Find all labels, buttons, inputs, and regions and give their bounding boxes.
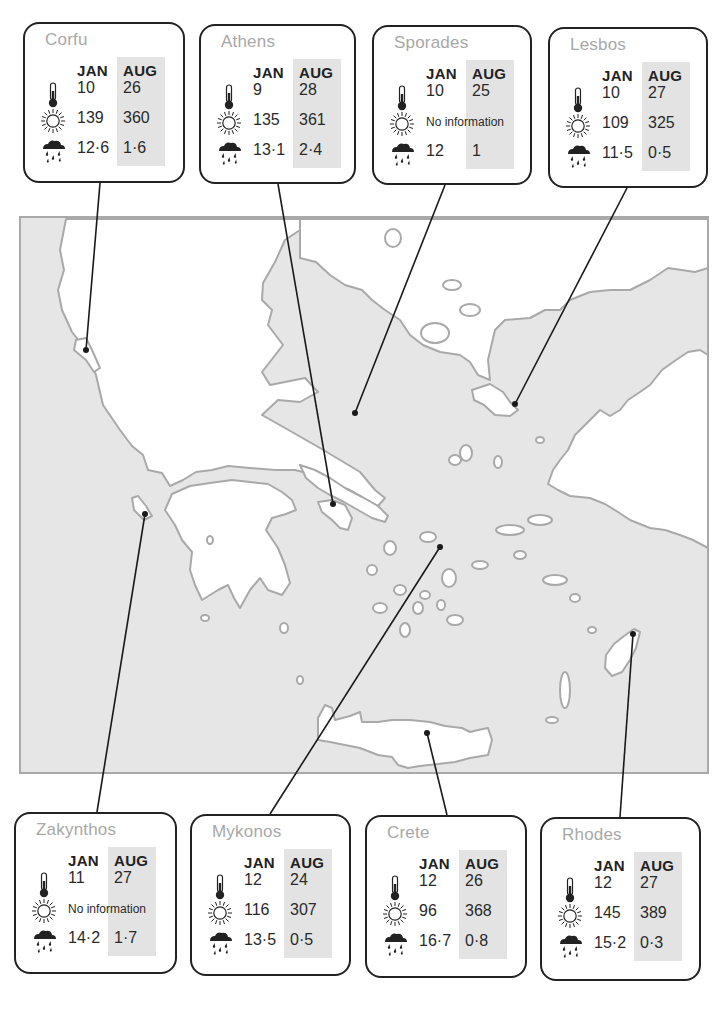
temp-jan: 11 <box>68 869 85 887</box>
sun-aug: 368 <box>465 902 492 920</box>
thermometer-icon <box>381 875 409 901</box>
jan-header: JAN <box>602 67 633 84</box>
sun-icon <box>556 903 584 929</box>
temp-aug: 26 <box>465 872 483 890</box>
location-name: Corfu <box>45 30 88 50</box>
jan-header: JAN <box>594 857 625 874</box>
location-name: Lesbos <box>570 35 626 55</box>
location-name: Rhodes <box>562 825 622 845</box>
sun-icon <box>39 108 67 134</box>
temp-jan: 12 <box>419 872 437 890</box>
thermometer-icon <box>39 82 67 108</box>
location-name: Athens <box>221 32 275 52</box>
dot-lesbos <box>512 401 518 407</box>
location-name: Mykonos <box>212 822 281 842</box>
card-rhodes: Rhodes JAN AUG 12 27 145 389 15·2 0·3 <box>540 817 701 981</box>
sun-icon <box>388 111 416 137</box>
location-name: Zakynthos <box>36 820 116 840</box>
sun-aug: 389 <box>640 904 667 922</box>
card-crete: Crete JAN AUG 12 26 96 368 16·7 0·8 <box>365 815 527 978</box>
dot-sporades <box>352 410 358 416</box>
jan-header: JAN <box>426 65 457 82</box>
temp-aug: 27 <box>640 874 658 892</box>
card-corfu: Corfu JAN AUG 10 26 139 360 12·6 1·6 <box>23 22 185 183</box>
card-mykonos: Mykonos JAN AUG 12 24 116 307 13·5 0·5 <box>190 814 351 976</box>
rain-aug: 1·6 <box>123 139 146 157</box>
card-athens: Athens JAN AUG 9 28 135 361 13·1 2·4 <box>199 24 356 184</box>
dot-rhodes <box>630 631 636 637</box>
rain-cloud-icon <box>388 140 416 166</box>
rain-cloud-icon <box>556 932 584 958</box>
dot-corfu <box>83 347 89 353</box>
aug-header: AUG <box>648 67 682 84</box>
sun-aug: 361 <box>299 111 326 129</box>
thermometer-icon <box>564 87 592 113</box>
rain-cloud-icon <box>381 930 409 956</box>
temp-jan: 12 <box>594 874 612 892</box>
aug-header: AUG <box>472 65 506 82</box>
sun-icon <box>564 113 592 139</box>
sun-jan: 96 <box>419 902 437 920</box>
rain-jan: 16·7 <box>419 932 451 950</box>
temp-aug: 26 <box>123 79 141 97</box>
temp-jan: 10 <box>602 84 620 102</box>
temp-aug: 28 <box>299 81 317 99</box>
sun-icon <box>206 900 234 926</box>
rain-cloud-icon <box>39 137 67 163</box>
aug-header: AUG <box>290 854 324 871</box>
sun-icon <box>381 901 409 927</box>
dot-zakynthos <box>142 511 148 517</box>
rain-aug: 0·5 <box>290 931 313 949</box>
sun-icon <box>30 898 58 924</box>
thermometer-icon <box>556 877 584 903</box>
temp-aug: 24 <box>290 871 308 889</box>
sun-no-information: No information <box>426 115 504 129</box>
temp-jan: 9 <box>253 81 262 99</box>
aug-header: AUG <box>640 857 674 874</box>
jan-header: JAN <box>419 855 450 872</box>
rain-cloud-icon <box>30 927 58 953</box>
thermometer-icon <box>388 85 416 111</box>
rain-cloud-icon <box>206 929 234 955</box>
sun-jan: 135 <box>253 111 280 129</box>
aug-header: AUG <box>114 852 148 869</box>
rain-jan: 12 <box>426 142 444 160</box>
temp-jan: 10 <box>426 82 444 100</box>
thermometer-icon <box>206 874 234 900</box>
thermometer-icon <box>215 84 243 110</box>
jan-header: JAN <box>77 62 108 79</box>
dot-crete <box>424 730 430 736</box>
card-lesbos: Lesbos JAN AUG 10 27 109 325 11·5 0·5 <box>548 27 708 188</box>
aug-header: AUG <box>465 855 499 872</box>
rain-jan: 14·2 <box>68 929 100 947</box>
rain-jan: 11·5 <box>602 144 633 162</box>
location-name: Crete <box>387 823 430 843</box>
rain-aug: 0·3 <box>640 934 663 952</box>
dot-athens <box>330 501 336 507</box>
sun-icon <box>215 110 243 136</box>
sun-aug: 307 <box>290 901 317 919</box>
location-name: Sporades <box>394 33 468 53</box>
aug-header: AUG <box>299 64 333 81</box>
dot-mykonos <box>437 544 443 550</box>
card-sporades: Sporades JAN AUG 10 25 No information 12… <box>372 25 532 185</box>
sun-aug: 325 <box>648 114 675 132</box>
rain-aug: 1 <box>472 142 481 160</box>
rain-jan: 12·6 <box>77 139 109 157</box>
rain-aug: 0·8 <box>465 932 488 950</box>
aug-header: AUG <box>123 62 157 79</box>
rain-jan: 13·5 <box>244 931 276 949</box>
temp-jan: 10 <box>77 79 95 97</box>
rain-jan: 13·1 <box>253 141 285 159</box>
sun-no-information: No information <box>68 902 146 916</box>
sun-jan: 145 <box>594 904 621 922</box>
rain-cloud-icon <box>564 142 592 168</box>
temp-aug: 27 <box>648 84 666 102</box>
temp-jan: 12 <box>244 871 262 889</box>
thermometer-icon <box>30 872 58 898</box>
rain-aug: 0·5 <box>648 144 671 162</box>
jan-header: JAN <box>68 852 99 869</box>
temp-aug: 27 <box>114 869 132 887</box>
sun-jan: 116 <box>244 901 270 919</box>
jan-header: JAN <box>253 64 284 81</box>
